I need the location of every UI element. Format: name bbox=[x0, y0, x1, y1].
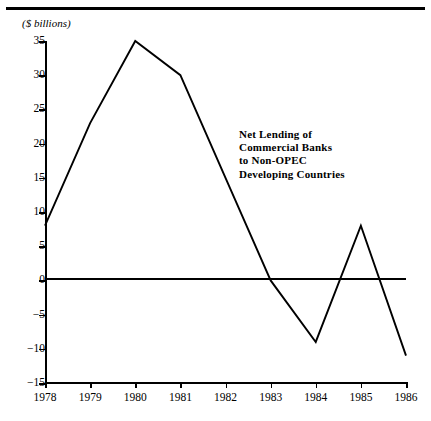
series-layer bbox=[0, 0, 431, 421]
chart-annotation-label: Net Lending of Commercial Banks to Non-O… bbox=[239, 128, 345, 181]
plot-area: 35302520151050−5−10−15 19781979198019811… bbox=[0, 0, 431, 421]
chart-figure: ($ billions) 35302520151050−5−10−15 1978… bbox=[0, 0, 431, 421]
series-line-net-lending bbox=[45, 41, 406, 356]
